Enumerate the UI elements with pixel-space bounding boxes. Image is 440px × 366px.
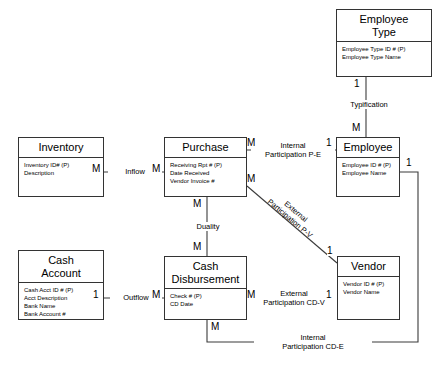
attribute: Bank Account # xyxy=(24,310,99,318)
cardinality-pe-employee: 1 xyxy=(326,138,332,148)
entity-inventory-name: Inventory xyxy=(19,138,103,158)
attribute: Cash Acct ID # (P) xyxy=(24,286,99,294)
cardinality-pe-purchase: M xyxy=(247,138,255,148)
attribute: Check # (P) xyxy=(170,292,242,300)
entity-purchase-name: Purchase xyxy=(165,138,246,158)
entity-vendor-name: Vendor xyxy=(338,257,399,277)
entity-employee-attributes: Employee ID # (P) Employee Name xyxy=(337,158,399,179)
attribute: Description xyxy=(24,169,99,177)
entity-purchase[interactable]: Purchase Receiving Rpt # (P) Date Receiv… xyxy=(164,137,247,197)
relationship-label-internal-participation-pe: Internal Participation P-E xyxy=(251,141,335,159)
cardinality-inflow-purchase: M xyxy=(152,164,160,174)
attribute: Employee Type Name xyxy=(342,53,427,61)
relationship-label-typification: Typification xyxy=(340,100,398,109)
entity-vendor-attributes: Vendor ID # (P) Vendor Name xyxy=(338,277,399,298)
entity-cash-disbursement-attributes: Check # (P) CD Date xyxy=(165,289,246,310)
entity-inventory-attributes: Inventory ID# (P) Description xyxy=(19,158,103,179)
attribute: Date Received xyxy=(170,169,242,177)
relationship-label-duality: Duality xyxy=(182,222,234,231)
cardinality-cdv-cash-disbursement: M xyxy=(247,290,255,300)
attribute: Vendor Invoice # xyxy=(170,177,242,185)
cardinality-outflow-cash-account: 1 xyxy=(93,290,99,300)
relationship-label-external-participation-cdv: External Participation CD-V xyxy=(251,289,337,307)
er-diagram-canvas: EmployeeType Employee Type ID # (P) Empl… xyxy=(0,0,440,366)
attribute: Inventory ID# (P) xyxy=(24,161,99,169)
entity-employee-type-attributes: Employee Type ID # (P) Employee Type Nam… xyxy=(337,42,431,63)
attribute: Vendor Name xyxy=(343,288,395,296)
cardinality-pv-vendor: 1 xyxy=(327,246,333,256)
cardinality-cde-cash-disbursement: M xyxy=(211,322,219,332)
entity-cash-account-attributes: Cash Acct ID # (P) Acct Description Bank… xyxy=(19,283,103,320)
attribute: Employee Type ID # (P) xyxy=(342,45,427,53)
entity-employee-type-name: EmployeeType xyxy=(337,10,431,42)
attribute: Acct Description xyxy=(24,294,99,302)
entity-cash-account[interactable]: CashAccount Cash Acct ID # (P) Acct Desc… xyxy=(18,250,104,320)
attribute: Bank Name xyxy=(24,302,99,310)
attribute: Vendor ID # (P) xyxy=(343,280,395,288)
entity-purchase-attributes: Receiving Rpt # (P) Date Received Vendor… xyxy=(165,158,246,187)
entity-employee-name: Employee xyxy=(337,138,399,158)
relationship-label-internal-participation-cde: Internal Participation CD-E xyxy=(254,333,372,351)
cardinality-pv-purchase: M xyxy=(247,174,255,184)
cardinality-cde-employee: 1 xyxy=(406,158,412,168)
cardinality-duality-purchase: M xyxy=(193,199,201,209)
entity-employee-type[interactable]: EmployeeType Employee Type ID # (P) Empl… xyxy=(336,9,432,77)
cardinality-typification-one: 1 xyxy=(354,79,360,89)
cardinality-inflow-inventory: M xyxy=(92,164,100,174)
entity-employee[interactable]: Employee Employee ID # (P) Employee Name xyxy=(336,137,400,197)
cardinality-cdv-vendor: 1 xyxy=(326,290,332,300)
attribute: Receiving Rpt # (P) xyxy=(170,161,242,169)
entity-vendor[interactable]: Vendor Vendor ID # (P) Vendor Name xyxy=(337,256,400,320)
cardinality-duality-cash-disbursement: M xyxy=(193,242,201,252)
entity-cash-disbursement-name: CashDisbursement xyxy=(165,257,246,289)
entity-cash-disbursement[interactable]: CashDisbursement Check # (P) CD Date xyxy=(164,256,247,320)
attribute: CD Date xyxy=(170,300,242,308)
cardinality-typification-many: M xyxy=(352,123,360,133)
attribute: Employee Name xyxy=(342,169,395,177)
cardinality-outflow-cash-disbursement: M xyxy=(152,290,160,300)
attribute: Employee ID # (P) xyxy=(342,161,395,169)
entity-cash-account-name: CashAccount xyxy=(19,251,103,283)
